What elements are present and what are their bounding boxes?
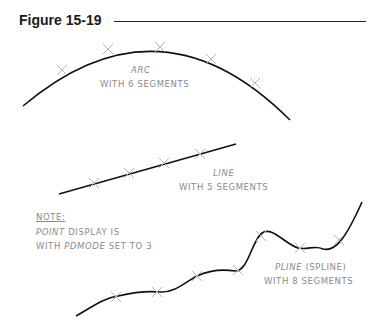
pline-label: PLINE (SPLINE) <box>275 262 346 272</box>
note-line2-rest: SET TO 3 <box>105 241 152 251</box>
arc-desc: WITH 6 SEGMENTS <box>100 79 189 89</box>
x-marker-icon <box>250 78 260 88</box>
note-line2-start: WITH <box>36 241 64 251</box>
x-marker-icon <box>233 265 243 275</box>
x-marker-icon <box>192 271 202 281</box>
pline-name: PLINE <box>275 262 302 272</box>
line-label: LINE <box>213 168 234 178</box>
note-line1-rest: DISPLAY IS <box>65 227 120 237</box>
line-desc: WITH 5 SEGMENTS <box>179 182 268 192</box>
pline-desc: WITH 8 SEGMENTS <box>264 276 353 286</box>
x-marker-icon <box>57 65 67 75</box>
note-point-term: POINT <box>36 227 65 237</box>
arc-label: ARC <box>131 65 150 75</box>
note-pdmode-term: PDMODE <box>64 241 105 251</box>
x-marker-icon <box>155 42 165 52</box>
x-marker-icon <box>206 54 216 64</box>
note-line-2: WITH PDMODE SET TO 3 <box>36 241 152 251</box>
x-marker-icon <box>256 231 266 241</box>
pline-suffix: (SPLINE) <box>302 262 346 272</box>
x-marker-icon <box>103 44 113 54</box>
note-heading: NOTE: <box>36 212 65 222</box>
note-line-1: POINT DISPLAY IS <box>36 227 120 237</box>
pline-spline <box>76 202 362 316</box>
